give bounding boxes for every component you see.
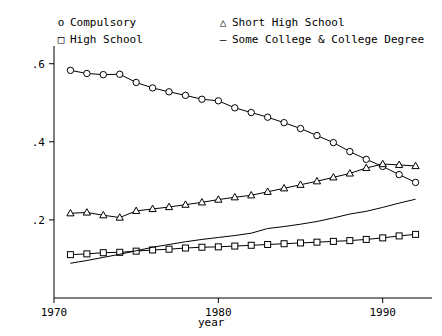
x-tick-label: 1970	[41, 306, 68, 319]
plot-area: .2.4.6197019801990	[0, 0, 442, 336]
axis-lines	[54, 46, 432, 298]
x-tick-label: 1990	[369, 306, 396, 319]
y-tick-label: .4	[32, 136, 46, 149]
y-tick-label: .2	[32, 214, 45, 227]
y-tick-label: .6	[32, 58, 45, 71]
series-3	[70, 199, 415, 263]
x-axis-title: year	[198, 316, 225, 329]
chart-container: o Compulsory □ High School △ Short High …	[0, 0, 442, 336]
